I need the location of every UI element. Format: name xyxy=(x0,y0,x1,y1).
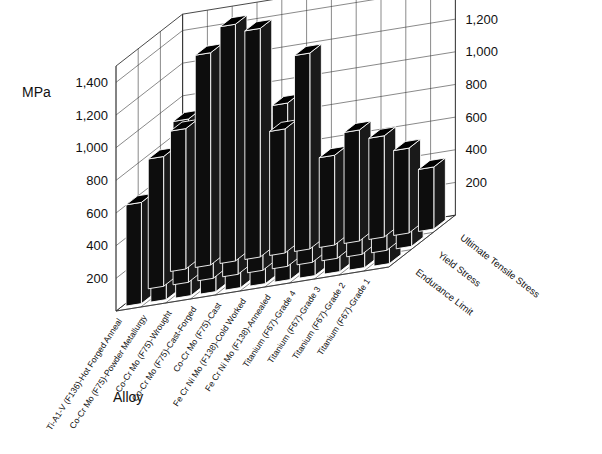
bar-face xyxy=(195,53,210,268)
series-axis-label: Ultimate Tensile Stress xyxy=(458,232,542,300)
bar-face xyxy=(126,202,141,306)
bar-face xyxy=(418,167,433,232)
chart-canvas: 2004006008001,0001,2001,4002004006008001… xyxy=(0,0,602,454)
bar[interactable] xyxy=(245,19,272,259)
left-axis-tick-label: 1,000 xyxy=(75,140,108,155)
bar-face xyxy=(294,53,309,251)
x-axis-title: Alloy xyxy=(113,389,143,405)
bar-face xyxy=(148,156,163,288)
bar[interactable] xyxy=(369,127,396,240)
bar-face xyxy=(394,148,409,235)
y-axis-title: MPa xyxy=(22,84,51,100)
bar[interactable] xyxy=(394,139,421,235)
bar-face xyxy=(434,158,446,229)
bar[interactable] xyxy=(418,158,445,232)
right-axis-tick-label: 600 xyxy=(465,110,487,125)
right-axis-tick-label: 200 xyxy=(465,175,487,190)
bar-face xyxy=(319,155,334,247)
bar-face xyxy=(344,130,359,244)
right-axis-tick-label: 1,200 xyxy=(465,12,498,27)
bar3d-chart: 2004006008001,0001,2001,4002004006008001… xyxy=(0,0,602,454)
left-axis-tick-label: 800 xyxy=(86,173,108,188)
right-axis-ticks: 2004006008001,0001,2001,400 xyxy=(465,0,498,190)
bar-face xyxy=(369,136,384,240)
bar[interactable] xyxy=(294,44,321,251)
left-axis-tick-label: 1,400 xyxy=(75,75,108,90)
bar-face xyxy=(245,28,260,259)
bar-face xyxy=(220,24,235,263)
bar[interactable] xyxy=(270,120,297,256)
left-axis-tick-label: 200 xyxy=(86,271,108,286)
bar[interactable] xyxy=(220,15,247,263)
bar-face xyxy=(270,129,285,256)
bar[interactable] xyxy=(195,44,222,268)
right-axis-tick-label: 800 xyxy=(465,77,487,92)
bar[interactable] xyxy=(319,146,346,247)
right-axis-tick-label: 1,000 xyxy=(465,44,498,59)
left-axis-ticks: 2004006008001,0001,2001,400 xyxy=(75,75,108,286)
series-labels: Ultimate Tensile StressYield StressEndur… xyxy=(414,232,543,318)
left-axis-tick-label: 400 xyxy=(86,238,108,253)
left-axis-tick-label: 600 xyxy=(86,206,108,221)
bar[interactable] xyxy=(170,120,197,272)
left-axis-tick-label: 1,200 xyxy=(75,108,108,123)
bar[interactable] xyxy=(344,121,371,244)
bar-face xyxy=(170,129,185,272)
category-labels: Ti-A1-V (F136)-Hot Forged AnnealCo-Cr Mo… xyxy=(44,276,372,432)
right-axis-tick-label: 400 xyxy=(465,142,487,157)
